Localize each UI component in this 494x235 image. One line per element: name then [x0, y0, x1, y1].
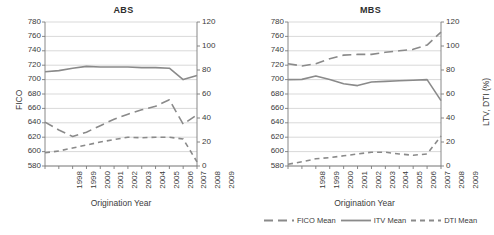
x-tick-label: 1999: [89, 171, 98, 197]
x-tick-label: 2004: [401, 171, 410, 197]
y-tick-label: 760: [19, 31, 41, 40]
x-tick-label: 2007: [443, 171, 452, 197]
x-tick-label: 1998: [75, 171, 84, 197]
x-tick-label: 2005: [415, 171, 424, 197]
solid-line-swatch: [341, 217, 371, 224]
y2-tick-label: 100: [446, 41, 468, 50]
x-tick-label: 2006: [186, 171, 195, 197]
short-dash-line-swatch: [411, 217, 441, 224]
y2-tick-label: 0: [446, 161, 468, 170]
y-tick-label: 700: [19, 74, 41, 83]
y-tick-label: 760: [262, 31, 284, 40]
legend-item-itv-mean: ITV Mean: [341, 216, 407, 225]
x-tick-label: 2008: [213, 171, 222, 197]
y-tick-label: 720: [19, 60, 41, 69]
y2-axis-title-mbs: LTV, DTI (%): [481, 78, 491, 126]
legend-label: DTI Mean: [444, 216, 477, 225]
y-tick-label: 640: [19, 117, 41, 126]
figure-root: ABS FICO Origination Year 58060062064066…: [0, 0, 494, 235]
y-tick-label: 660: [19, 103, 41, 112]
y-tick-label: 580: [19, 161, 41, 170]
x-tick-label: 2009: [227, 171, 236, 197]
y-tick-label: 780: [19, 17, 41, 26]
x-tick-label: 2006: [429, 171, 438, 197]
y-tick-label: 740: [262, 45, 284, 54]
y-tick-label: 740: [19, 45, 41, 54]
y-tick-label: 600: [262, 146, 284, 155]
y-tick-label: 680: [19, 89, 41, 98]
x-tick-label: 2002: [130, 171, 139, 197]
x-tick-label: 2009: [471, 171, 480, 197]
chart-panel-mbs: MBS LTV, DTI (%) Origination Year 580600…: [247, 0, 494, 235]
x-tick-label: 2001: [360, 171, 369, 197]
legend-item-dti-mean: DTI Mean: [411, 216, 477, 225]
y2-tick-label: 40: [446, 113, 468, 122]
x-tick-label: 2000: [346, 171, 355, 197]
x-axis-title-mbs: Origination Year: [288, 198, 441, 208]
x-tick-label: 1999: [332, 171, 341, 197]
y-tick-label: 700: [262, 74, 284, 83]
x-tick-label: 2003: [388, 171, 397, 197]
y2-tick-label: 40: [202, 113, 224, 122]
x-tick-label: 2005: [172, 171, 181, 197]
legend-label: FICO Mean: [297, 216, 336, 225]
x-tick-label: 2003: [144, 171, 153, 197]
x-tick-label: 2008: [457, 171, 466, 197]
y-tick-label: 600: [19, 146, 41, 155]
y2-tick-label: 80: [202, 65, 224, 74]
x-tick-label: 2004: [158, 171, 167, 197]
legend-item-fico-mean: FICO Mean: [264, 216, 336, 225]
y-tick-label: 620: [19, 132, 41, 141]
y2-tick-label: 120: [446, 17, 468, 26]
chart-panel-abs: ABS FICO Origination Year 58060062064066…: [0, 0, 247, 235]
legend-label: ITV Mean: [374, 216, 407, 225]
x-tick-label: 2000: [103, 171, 112, 197]
y-tick-label: 580: [262, 161, 284, 170]
y-tick-label: 780: [262, 17, 284, 26]
y2-tick-label: 100: [202, 41, 224, 50]
x-tick-label: 1998: [318, 171, 327, 197]
x-tick-label: 2002: [374, 171, 383, 197]
y2-tick-label: 120: [202, 17, 224, 26]
y2-tick-label: 0: [202, 161, 224, 170]
x-axis-title-abs: Origination Year: [45, 198, 197, 208]
y2-tick-label: 20: [202, 137, 224, 146]
y-tick-label: 620: [262, 132, 284, 141]
y-tick-label: 640: [262, 117, 284, 126]
long-dash-line-swatch: [264, 217, 294, 224]
x-tick-label: 2001: [116, 171, 125, 197]
y-tick-label: 660: [262, 103, 284, 112]
chart-legend: FICO MeanITV MeanDTI Mean: [247, 212, 494, 228]
x-tick-label: 2007: [199, 171, 208, 197]
y2-tick-label: 20: [446, 137, 468, 146]
y2-tick-label: 60: [446, 89, 468, 98]
y2-tick-label: 60: [202, 89, 224, 98]
y-tick-label: 680: [262, 89, 284, 98]
y-tick-label: 720: [262, 60, 284, 69]
y2-tick-label: 80: [446, 65, 468, 74]
